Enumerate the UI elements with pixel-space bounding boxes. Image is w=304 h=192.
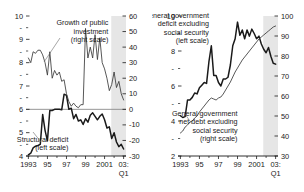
left-axis-tick-label: 8 <box>19 58 23 67</box>
left-axis-minor-mark: - <box>20 93 23 102</box>
left-axis-tick-label: 6 <box>171 82 175 91</box>
left-axis-minor-mark: - <box>20 117 23 126</box>
x-axis-tick-label: 95 <box>195 160 203 169</box>
x-axis-tick-label: 03: <box>270 160 280 169</box>
right-axis-tick-label: 90 <box>281 32 289 41</box>
x-axis-tick-label: 97 <box>62 160 70 169</box>
left-axis-minor-mark: - <box>20 23 23 32</box>
x-axis-tick-label: 2001 <box>248 160 264 169</box>
x-axis-tick-label: 99 <box>81 160 89 169</box>
annotation-line: (right scale) <box>200 134 238 143</box>
left-axis-tick-label: 6 <box>19 105 23 114</box>
left-axis-minor-mark: - <box>172 99 175 108</box>
x-axis-tick-label: 95 <box>43 160 51 169</box>
left-axis-minor-mark: - <box>20 47 23 56</box>
left-axis-tick-label: 4 <box>19 152 23 161</box>
x-axis-sublabel: Q1 <box>119 169 129 178</box>
right-axis-tick-label: 50 <box>129 27 137 36</box>
right-axis-tick-label: 10 <box>129 89 137 98</box>
right-axis-tick-label: 100 <box>281 12 293 21</box>
left-axis-minor-mark: - <box>20 70 23 79</box>
right-axis-tick-label: 80 <box>281 52 289 61</box>
left-axis-minor-mark: - <box>172 134 175 143</box>
left-axis-tick-label: 7 <box>19 82 23 91</box>
x-axis-sublabel: Q1 <box>271 169 281 178</box>
x-axis-tick-label: 03: <box>118 160 128 169</box>
right-axis-tick-label: 40 <box>129 43 137 52</box>
right-axis-tick-label: 30 <box>281 152 289 161</box>
forecast-shaded-band <box>263 16 278 156</box>
chart-panel-left: 1993959799200103:Q145678910-------30-20-… <box>0 0 152 192</box>
annotation-label-2: Structural deficit(left scale) <box>17 135 69 152</box>
right-axis-tick-label: 20 <box>129 74 137 83</box>
right-axis-tick-label: 70 <box>281 72 289 81</box>
x-axis-tick-label: 1993 <box>172 160 188 169</box>
x-axis-tick-label: 2001 <box>96 160 112 169</box>
annotation-label-1: Growth of publicinvestment(right scale) <box>56 18 108 44</box>
right-axis-tick-label: -30 <box>129 152 140 161</box>
annotation-leader-line <box>44 38 60 62</box>
x-axis-tick-label: 97 <box>214 160 222 169</box>
chart-panel-right: 1993959799200103:Q1246810----30405060708… <box>152 0 304 192</box>
left-axis-tick-label: 2 <box>171 152 175 161</box>
right-axis-tick-label: 60 <box>129 12 137 21</box>
annotation-line: (left scale) <box>176 36 209 45</box>
x-axis-tick-label: 1993 <box>20 160 36 169</box>
right-axis-tick-label: 60 <box>281 92 289 101</box>
chart-svg-left: 1993959799200103:Q145678910-------30-20-… <box>0 0 152 192</box>
left-axis-tick-label: 4 <box>171 117 175 126</box>
right-axis-tick-label: 0 <box>129 105 133 114</box>
chart-svg-right: 1993959799200103:Q1246810----30405060708… <box>152 0 304 192</box>
right-axis-tick-label: -20 <box>129 136 140 145</box>
right-axis-tick-label: 50 <box>281 112 289 121</box>
x-axis-tick-label: 99 <box>233 160 241 169</box>
right-axis-tick-label: 30 <box>129 58 137 67</box>
left-axis-tick-label: 9 <box>19 35 23 44</box>
left-axis-tick-label: 8 <box>171 47 175 56</box>
right-axis-tick-label: -10 <box>129 120 140 129</box>
dual-panel-line-chart-figure: 1993959799200103:Q145678910-------30-20-… <box>0 0 304 192</box>
annotation-label-2: General governmentnet debt excludingsoci… <box>172 109 238 143</box>
right-axis-tick-label: 40 <box>281 132 289 141</box>
annotation-label-1: General governmentdeficit excludingsocia… <box>152 11 209 45</box>
left-axis-tick-label: 10 <box>15 12 23 21</box>
left-axis-minor-mark: - <box>172 64 175 73</box>
annotation-line: (right scale) <box>71 35 109 44</box>
annotation-line: (left scale) <box>35 143 68 152</box>
